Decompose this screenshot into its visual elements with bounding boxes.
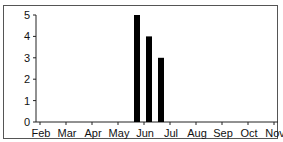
y-tick-label: 1 xyxy=(24,95,30,107)
y-tick-label: 2 xyxy=(24,73,30,85)
bar xyxy=(134,15,140,122)
x-tick-label: Sep xyxy=(213,127,233,139)
x-tick-label: Aug xyxy=(187,127,207,139)
y-tick-label: 3 xyxy=(24,52,30,64)
bar xyxy=(146,36,152,122)
x-tick-label: Nov xyxy=(265,127,283,139)
y-tick-label: 0 xyxy=(24,116,30,128)
y-tick-label: 5 xyxy=(24,9,30,21)
bar xyxy=(158,58,164,122)
x-tick-label: Mar xyxy=(58,127,77,139)
y-tick-label: 4 xyxy=(24,30,30,42)
bar-chart: 012345FebMarAprMayJunJulAugSepOctNov xyxy=(0,0,283,142)
x-tick-label: Feb xyxy=(32,127,51,139)
x-tick-label: Oct xyxy=(240,127,257,139)
x-tick-label: Jul xyxy=(164,127,178,139)
x-tick-label: Jun xyxy=(136,127,154,139)
x-tick-label: May xyxy=(109,127,130,139)
x-tick-label: Apr xyxy=(84,127,101,139)
